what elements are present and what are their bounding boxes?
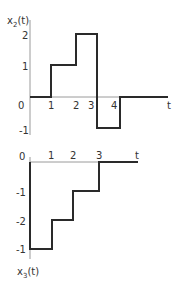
- xtick-3: 3: [88, 100, 94, 111]
- xtick-4: 4: [111, 100, 117, 111]
- ytick-m1: -1: [16, 187, 26, 198]
- plot-x2: x2(t) 2 1 0 -1 1 2 3 4 t: [7, 15, 171, 136]
- ytick-1: 1: [22, 61, 28, 72]
- xtick-2: 2: [73, 100, 79, 111]
- ylabel-x2: x2(t): [7, 15, 29, 29]
- ytick-m1: -1: [19, 125, 29, 136]
- xtick-1: 1: [48, 100, 54, 111]
- plot-x3: 0 -1 -2 -1 1 2 3 t x3(t): [16, 150, 139, 280]
- ytick-2: 2: [22, 30, 28, 41]
- ytick-0: 0: [19, 151, 25, 162]
- xtick-1: 1: [48, 150, 54, 161]
- signal-plots: x2(t) 2 1 0 -1 1 2 3 4 t 0 -1 -2 -1 1 2 …: [0, 0, 180, 291]
- xlabel-t: t: [135, 150, 139, 161]
- signal-x3: [30, 162, 138, 249]
- xtick-2: 2: [70, 150, 76, 161]
- ytick-m2: -2: [16, 216, 26, 227]
- ytick-0: 0: [18, 100, 24, 111]
- ytick-m3: -1: [16, 244, 26, 255]
- xtick-3: 3: [96, 150, 102, 161]
- xlabel-t: t: [167, 100, 171, 111]
- ylabel-x3: x3(t): [17, 266, 39, 280]
- signal-x2: [30, 34, 168, 128]
